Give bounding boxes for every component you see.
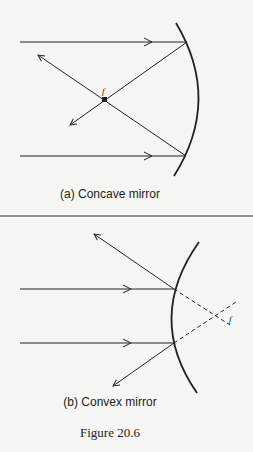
focus-label: f bbox=[102, 86, 106, 96]
focus-point bbox=[102, 97, 107, 102]
concave-mirror bbox=[174, 23, 199, 176]
virtual-focus-label: f bbox=[229, 314, 233, 324]
reflected-ray-2 bbox=[113, 343, 174, 386]
panel-convex: f (b) Convex mirror bbox=[20, 234, 236, 409]
panel-concave: f (a) Concave mirror bbox=[20, 23, 199, 201]
panel-a-caption: (a) Concave mirror bbox=[60, 187, 160, 201]
panel-b-caption: (b) Convex mirror bbox=[63, 395, 156, 409]
convex-mirror bbox=[171, 242, 199, 393]
reflected-ray-2 bbox=[38, 55, 186, 156]
figure-canvas: f (a) Concave mirror f (b) Convex mirror… bbox=[0, 0, 253, 452]
virtual-extension-1 bbox=[174, 289, 230, 325]
reflected-ray-1 bbox=[94, 234, 174, 289]
virtual-extension-2 bbox=[174, 302, 236, 343]
figure-caption: Figure 20.6 bbox=[80, 425, 140, 440]
reflected-ray-1 bbox=[70, 42, 187, 125]
